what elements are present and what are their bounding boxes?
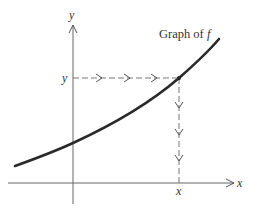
x-value-label: x — [175, 184, 182, 198]
y-axis — [69, 25, 77, 204]
function-curve — [15, 39, 219, 166]
y-axis-label: y — [68, 8, 75, 22]
curve-label: Graph of f — [159, 27, 212, 41]
curve-label-text: Graph of — [159, 27, 207, 41]
diagram-canvas: y x y x Graph of f — [0, 0, 257, 211]
x-axis-label: x — [236, 176, 243, 190]
vertical-dashed-line — [175, 78, 183, 183]
horizontal-dashed-line — [73, 74, 179, 82]
x-axis — [8, 179, 234, 187]
curve-label-var: f — [207, 27, 212, 41]
intersection-point — [177, 76, 181, 80]
y-value-label: y — [61, 71, 68, 85]
